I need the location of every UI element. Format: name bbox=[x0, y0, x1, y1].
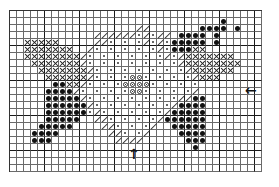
grid-cell bbox=[192, 11, 199, 18]
grid-cell bbox=[80, 165, 87, 172]
grid-cell bbox=[143, 130, 150, 137]
cross-stitch-icon bbox=[59, 60, 65, 66]
filled-dot-icon bbox=[59, 81, 65, 87]
small-dot-icon bbox=[122, 102, 128, 108]
grid-cell bbox=[108, 151, 115, 158]
grid-cell bbox=[52, 46, 59, 53]
grid-cell bbox=[136, 123, 143, 130]
grid-cell bbox=[192, 25, 199, 32]
grid-cell bbox=[101, 39, 108, 46]
cross-stitch-icon bbox=[192, 60, 198, 66]
grid-cell bbox=[17, 116, 24, 123]
grid-cell bbox=[206, 151, 213, 158]
small-dot-icon bbox=[157, 60, 163, 66]
grid-cell bbox=[87, 74, 94, 81]
grid-cell bbox=[136, 137, 143, 144]
filled-dot-icon bbox=[59, 88, 65, 94]
grid-cell bbox=[122, 137, 129, 144]
grid-cell bbox=[185, 53, 192, 60]
grid-cell bbox=[185, 137, 192, 144]
grid-cell bbox=[157, 74, 164, 81]
grid-cell bbox=[248, 11, 255, 18]
grid-cell bbox=[52, 39, 59, 46]
filled-dot-icon bbox=[192, 39, 198, 45]
grid-cell bbox=[129, 130, 136, 137]
grid-cell bbox=[171, 137, 178, 144]
grid-cell bbox=[220, 39, 227, 46]
grid-cell bbox=[115, 11, 122, 18]
grid-cell bbox=[66, 102, 73, 109]
filled-dot-icon bbox=[38, 123, 44, 129]
grid-cell bbox=[94, 81, 101, 88]
grid-cell bbox=[52, 88, 59, 95]
grid-cell bbox=[227, 165, 234, 172]
grid-cell bbox=[94, 60, 101, 67]
grid-cell bbox=[122, 109, 129, 116]
grid-cell bbox=[59, 137, 66, 144]
grid-cell bbox=[241, 165, 248, 172]
grid-cell bbox=[66, 144, 73, 151]
cross-stitch-icon bbox=[66, 74, 72, 80]
grid-cell bbox=[17, 130, 24, 137]
small-dot-icon bbox=[94, 102, 100, 108]
filled-dot-icon bbox=[199, 109, 205, 115]
grid-cell bbox=[94, 165, 101, 172]
half-stitch-icon bbox=[122, 32, 128, 38]
grid-cell bbox=[192, 116, 199, 123]
grid-cell bbox=[66, 60, 73, 67]
grid-cell bbox=[52, 74, 59, 81]
half-stitch-icon bbox=[87, 102, 93, 108]
grid-cell bbox=[73, 74, 80, 81]
small-dot-icon bbox=[143, 60, 149, 66]
grid-cell bbox=[94, 137, 101, 144]
grid-cell bbox=[24, 81, 31, 88]
grid-cell bbox=[199, 81, 206, 88]
grid-cell bbox=[213, 123, 220, 130]
grid-cell bbox=[24, 102, 31, 109]
grid-cell bbox=[220, 53, 227, 60]
grid-cell bbox=[143, 74, 150, 81]
grid-cell bbox=[122, 102, 129, 109]
grid-cell bbox=[185, 88, 192, 95]
grid-cell bbox=[178, 123, 185, 130]
filled-dot-icon bbox=[192, 144, 198, 150]
grid-cell bbox=[255, 116, 262, 123]
grid-cell bbox=[17, 25, 24, 32]
half-stitch-icon bbox=[150, 123, 156, 129]
grid-cell bbox=[66, 81, 73, 88]
grid-cell bbox=[185, 158, 192, 165]
center-left-arrow-icon: ← bbox=[245, 83, 257, 97]
grid-cell bbox=[234, 88, 241, 95]
grid-cell bbox=[87, 151, 94, 158]
grid-cell bbox=[101, 137, 108, 144]
filled-dot-icon bbox=[199, 102, 205, 108]
grid-cell bbox=[10, 130, 17, 137]
grid-cell bbox=[227, 109, 234, 116]
grid-cell bbox=[129, 109, 136, 116]
filled-dot-icon bbox=[66, 109, 72, 115]
grid-cell bbox=[24, 158, 31, 165]
cross-stitch-icon bbox=[52, 39, 58, 45]
grid-cell bbox=[45, 11, 52, 18]
grid-cell bbox=[248, 18, 255, 25]
grid-cell bbox=[80, 32, 87, 39]
grid-cell bbox=[115, 158, 122, 165]
grid-cell bbox=[150, 130, 157, 137]
grid-cell bbox=[80, 109, 87, 116]
grid-cell bbox=[227, 116, 234, 123]
cross-stitch-icon bbox=[52, 60, 58, 66]
grid-cell bbox=[178, 60, 185, 67]
grid-cell bbox=[73, 25, 80, 32]
grid-cell bbox=[143, 116, 150, 123]
filled-dot-icon bbox=[199, 32, 205, 38]
filled-dot-icon bbox=[199, 25, 205, 31]
filled-dot-icon bbox=[178, 39, 184, 45]
grid-cell bbox=[255, 39, 262, 46]
grid-cell bbox=[248, 116, 255, 123]
grid-cell bbox=[115, 39, 122, 46]
grid-cell bbox=[157, 102, 164, 109]
grid-cell bbox=[206, 102, 213, 109]
filled-dot-icon bbox=[185, 39, 191, 45]
grid-cell bbox=[220, 109, 227, 116]
grid-cell bbox=[101, 88, 108, 95]
